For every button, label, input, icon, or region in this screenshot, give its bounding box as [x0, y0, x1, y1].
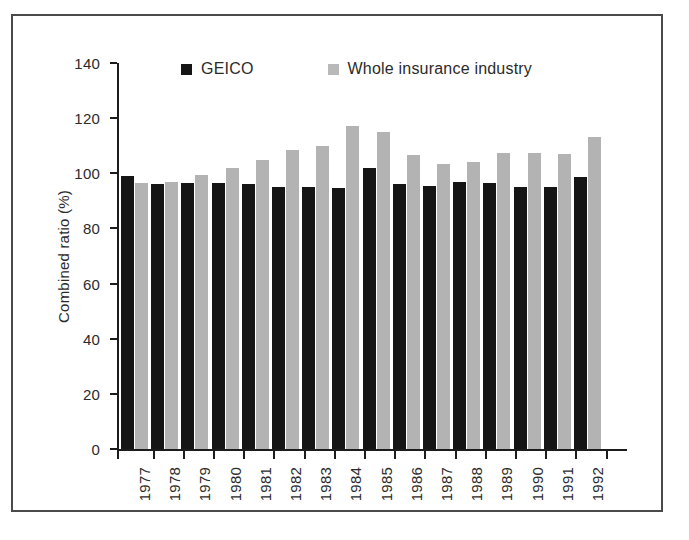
bar-1989-industry — [497, 153, 510, 449]
bar-1988-industry — [467, 162, 480, 449]
x-axis-tick-origin — [117, 451, 119, 459]
bar-1981-industry — [256, 160, 269, 450]
x-axis-tick — [515, 451, 517, 459]
x-axis-tick — [606, 451, 608, 459]
bar-1979-geico — [181, 183, 194, 449]
x-axis-tick — [273, 451, 275, 459]
bar-1992-geico — [574, 177, 587, 449]
x-axis-tick-label: 1980 — [227, 467, 244, 501]
bar-1988-geico — [453, 182, 466, 449]
bar-1987-geico — [423, 186, 436, 449]
bar-1991-industry — [558, 154, 571, 449]
x-axis-tick-label: 1990 — [529, 467, 546, 501]
bar-1978-industry — [165, 182, 178, 449]
x-axis-tick-label: 1979 — [196, 467, 213, 501]
x-axis-tick-label: 1992 — [589, 467, 606, 501]
y-axis-tick: 40 — [110, 338, 117, 340]
bar-1989-geico — [483, 183, 496, 449]
x-axis-tick-label: 1984 — [347, 467, 364, 501]
y-axis-tick-label: 100 — [74, 165, 100, 182]
y-axis-tick: 20 — [110, 393, 117, 395]
x-axis-tick-label: 1978 — [166, 467, 183, 501]
y-axis-tick-label: 80 — [83, 220, 100, 237]
bar-1980-industry — [226, 168, 239, 449]
x-axis-tick — [485, 451, 487, 459]
bar-1990-industry — [528, 153, 541, 449]
y-axis-tick: 0 — [110, 448, 117, 450]
y-axis-tick: 60 — [110, 283, 117, 285]
x-axis-tick-label: 1987 — [438, 467, 455, 501]
bar-1983-geico — [302, 187, 315, 449]
x-axis-tick — [455, 451, 457, 459]
x-axis-tick — [213, 451, 215, 459]
x-axis-line — [117, 449, 627, 451]
y-axis-tick-label: 140 — [74, 55, 100, 72]
x-axis-tick — [183, 451, 185, 459]
x-axis-tick — [334, 451, 336, 459]
y-axis-tick-label: 20 — [83, 385, 100, 402]
x-axis-tick-label: 1977 — [136, 467, 153, 501]
bar-1987-industry — [437, 164, 450, 449]
y-axis-title: Combined ratio (%) — [53, 63, 73, 449]
x-axis-tick-label: 1983 — [317, 467, 334, 501]
bar-1992-industry — [588, 137, 601, 449]
y-axis-tick-label: 40 — [83, 330, 100, 347]
x-axis-tick-label: 1988 — [468, 467, 485, 501]
x-axis-tick-label: 1989 — [498, 467, 515, 501]
bar-1986-geico — [393, 184, 406, 449]
bar-1978-geico — [151, 184, 164, 449]
plot-area: 020406080100120140 197719781979198019811… — [117, 63, 609, 449]
y-axis-tick: 120 — [110, 117, 117, 119]
bar-1990-geico — [514, 187, 527, 449]
chart-frame-border: Combined ratio (%) GEICO Whole insurance… — [11, 14, 663, 512]
y-axis-title-text: Combined ratio (%) — [55, 190, 72, 323]
bar-1982-geico — [272, 187, 285, 449]
x-axis-tick — [364, 451, 366, 459]
x-axis-tick — [545, 451, 547, 459]
y-axis-tick-label: 0 — [91, 441, 100, 458]
bar-1985-geico — [363, 168, 376, 449]
figure: Combined ratio (%) GEICO Whole insurance… — [0, 0, 689, 540]
x-axis-tick-label: 1991 — [559, 467, 576, 501]
bar-1985-industry — [377, 132, 390, 449]
bar-1984-geico — [332, 188, 345, 449]
y-axis-tick-label: 120 — [74, 110, 100, 127]
bar-1980-geico — [212, 183, 225, 449]
bar-1979-industry — [195, 175, 208, 449]
bar-1977-geico — [121, 176, 134, 449]
y-axis-tick: 140 — [110, 62, 117, 64]
x-axis-tick — [424, 451, 426, 459]
x-axis-tick-label: 1985 — [378, 467, 395, 501]
y-axis-tick: 80 — [110, 227, 117, 229]
y-axis-tick-label: 60 — [83, 275, 100, 292]
x-axis-tick-label: 1981 — [257, 467, 274, 501]
x-axis-tick — [304, 451, 306, 459]
y-axis-tick: 100 — [110, 172, 117, 174]
x-axis-tick — [243, 451, 245, 459]
bar-1983-industry — [316, 146, 329, 449]
bar-1984-industry — [346, 126, 359, 449]
x-axis-tick-label: 1986 — [408, 467, 425, 501]
x-axis-tick-label: 1982 — [287, 467, 304, 501]
bar-1982-industry — [286, 150, 299, 449]
x-axis-tick — [394, 451, 396, 459]
bar-1986-industry — [407, 155, 420, 449]
x-axis-tick — [575, 451, 577, 459]
bar-1981-geico — [242, 184, 255, 449]
bar-1977-industry — [135, 183, 148, 449]
bar-1991-geico — [544, 187, 557, 449]
x-axis-tick — [153, 451, 155, 459]
y-axis-line — [117, 63, 119, 449]
